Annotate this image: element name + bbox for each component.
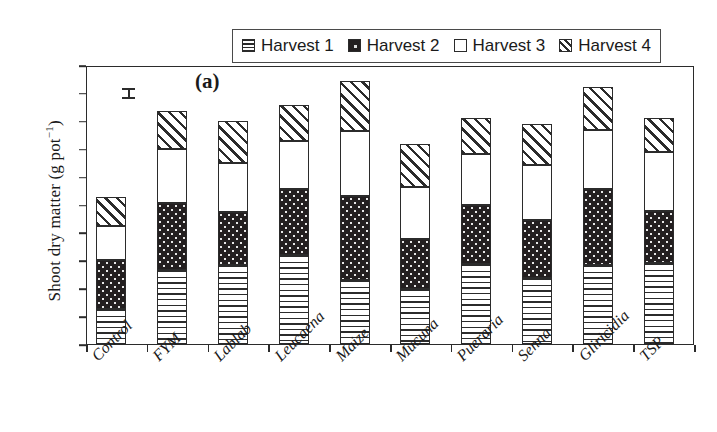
bar-control[interactable] — [96, 65, 126, 344]
legend-label-1: Harvest 1 — [261, 36, 334, 56]
bar-segment-leucaena-harvest-4[interactable] — [279, 105, 309, 141]
y-axis-title-text: Shoot dry matter (g pot — [45, 138, 64, 301]
y-axis-title: Shoot dry matter (g pot−1) — [43, 61, 65, 361]
lsd-cap-bottom — [122, 97, 135, 99]
lsd-error-bar — [122, 88, 135, 99]
y-axis-title-exponent: −1 — [43, 126, 55, 138]
bar-segment-control-harvest-4[interactable] — [96, 197, 126, 226]
bar-segment-maize-harvest-3[interactable] — [340, 131, 370, 196]
bar-segment-mucuna-harvest-2[interactable] — [400, 239, 430, 289]
bar-segment-maize-harvest-4[interactable] — [340, 81, 370, 131]
legend-label-4: Harvest 4 — [578, 36, 651, 56]
x-tick-mark-10 — [694, 345, 696, 352]
legend-swatch-white-icon — [454, 39, 467, 52]
y-tick-mark-40 — [79, 121, 86, 123]
legend-label-2: Harvest 2 — [367, 36, 440, 56]
y-tick-mark-5 — [79, 316, 86, 318]
legend-entry-3[interactable]: Harvest 3 — [454, 36, 546, 56]
y-tick-mark-25 — [79, 205, 86, 207]
bar-pueraria[interactable] — [461, 65, 491, 344]
bar-segment-pueraria-harvest-4[interactable] — [461, 118, 491, 154]
x-tick-mark-2 — [208, 345, 210, 352]
chart-figure: Shoot dry matter (g pot−1) 0510152025303… — [0, 0, 717, 432]
bar-maize[interactable] — [340, 65, 370, 344]
bar-segment-tsp-harvest-3[interactable] — [644, 152, 674, 211]
legend-entry-1[interactable]: Harvest 1 — [242, 36, 334, 56]
bar-gliricidia[interactable] — [583, 65, 613, 344]
bar-segment-control-harvest-3[interactable] — [96, 226, 126, 260]
bar-segment-tsp-harvest-2[interactable] — [644, 211, 674, 263]
bar-segment-tsp-harvest-1[interactable] — [644, 263, 674, 344]
x-tick-mark-7 — [512, 345, 514, 352]
legend-entry-4[interactable]: Harvest 4 — [559, 36, 651, 56]
x-tick-mark-4 — [329, 345, 331, 352]
bar-segment-pueraria-harvest-2[interactable] — [461, 205, 491, 264]
bar-fym[interactable] — [157, 65, 187, 344]
bar-segment-mucuna-harvest-4[interactable] — [400, 144, 430, 186]
y-axis-title-paren: ) — [45, 120, 64, 126]
bar-segment-senna-harvest-3[interactable] — [522, 165, 552, 219]
bar-segment-pueraria-harvest-3[interactable] — [461, 154, 491, 205]
bar-segment-lablab-harvest-2[interactable] — [218, 212, 248, 264]
bar-segment-maize-harvest-2[interactable] — [340, 196, 370, 280]
panel-label: (a) — [195, 69, 220, 94]
y-tick-mark-0 — [79, 344, 86, 346]
bar-segment-fym-harvest-2[interactable] — [157, 203, 187, 269]
legend-swatch-diagonal-hatch-icon — [559, 39, 572, 52]
y-tick-mark-50 — [79, 65, 86, 67]
legend: Harvest 1Harvest 2Harvest 3Harvest 4 — [232, 29, 661, 63]
bar-mucuna[interactable] — [400, 65, 430, 344]
bar-segment-gliricidia-harvest-3[interactable] — [583, 130, 613, 189]
x-tick-mark-8 — [572, 345, 574, 352]
bar-lablab[interactable] — [218, 65, 248, 344]
legend-swatch-dark-dotted-icon — [348, 39, 361, 52]
bar-segment-leucaena-harvest-2[interactable] — [279, 189, 309, 255]
x-tick-mark-3 — [268, 345, 270, 352]
x-tick-mark-9 — [633, 345, 635, 352]
bar-tsp[interactable] — [644, 65, 674, 344]
bar-segment-leucaena-harvest-3[interactable] — [279, 141, 309, 189]
bar-segment-gliricidia-harvest-4[interactable] — [583, 87, 613, 131]
y-tick-mark-30 — [79, 177, 86, 179]
y-tick-mark-20 — [79, 233, 86, 235]
bar-segment-control-harvest-2[interactable] — [96, 260, 126, 310]
y-tick-mark-15 — [79, 261, 86, 263]
bar-segment-fym-harvest-4[interactable] — [157, 111, 187, 149]
bar-segment-gliricidia-harvest-2[interactable] — [583, 189, 613, 265]
legend-entry-2[interactable]: Harvest 2 — [348, 36, 440, 56]
y-tick-mark-45 — [79, 93, 86, 95]
bar-segment-mucuna-harvest-3[interactable] — [400, 187, 430, 239]
legend-label-3: Harvest 3 — [473, 36, 546, 56]
plot-area — [86, 66, 694, 345]
bar-segment-tsp-harvest-4[interactable] — [644, 118, 674, 152]
bar-leucaena[interactable] — [279, 65, 309, 344]
bar-segment-lablab-harvest-3[interactable] — [218, 163, 248, 212]
bar-segment-lablab-harvest-4[interactable] — [218, 121, 248, 163]
bar-segment-senna-harvest-2[interactable] — [522, 220, 552, 278]
bar-segment-senna-harvest-4[interactable] — [522, 124, 552, 166]
legend-swatch-horizontal-lines-icon — [242, 39, 255, 52]
bar-senna[interactable] — [522, 65, 552, 344]
y-tick-mark-35 — [79, 149, 86, 151]
bar-segment-fym-harvest-3[interactable] — [157, 149, 187, 203]
y-tick-mark-10 — [79, 288, 86, 290]
